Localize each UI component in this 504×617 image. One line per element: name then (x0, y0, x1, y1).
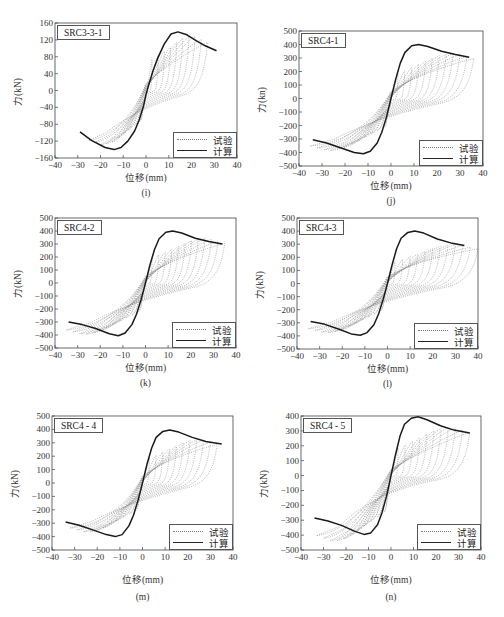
y-tick-label: 300 (286, 426, 300, 436)
x-tick-label: −30 (71, 350, 86, 360)
x-tick-label: 10 (410, 168, 420, 178)
y-tick-label: −100 (34, 291, 53, 301)
x-tick-label: 10 (164, 350, 174, 360)
test-hysteresis-loops (311, 53, 474, 150)
y-tick-label: 120 (40, 35, 54, 45)
y-tick-label: −300 (280, 515, 299, 525)
x-tick-label: 10 (164, 160, 174, 170)
x-tick-label: 20 (183, 552, 193, 562)
legend-item-calc: 计算 (176, 335, 232, 346)
x-tick-label: 30 (209, 350, 219, 360)
y-axis-label: 力(kN) (252, 265, 266, 305)
y-tick-label: −300 (34, 317, 53, 327)
x-tick-label: 30 (451, 351, 461, 361)
x-tick-label: 40 (232, 350, 242, 360)
y-tick-label: −300 (276, 318, 295, 328)
y-tick-label: 300 (282, 239, 296, 249)
y-tick-label: −400 (34, 330, 53, 340)
x-axis-label: 位移(mm) (301, 572, 481, 586)
chart-panel-n: −40−30−20−10010203040−500−400−300−200−10… (301, 416, 481, 550)
solid-line-swatch-icon (423, 158, 453, 159)
y-tick-label: 160 (40, 18, 54, 28)
x-tick-label: 20 (432, 552, 442, 562)
panel-caption: (m) (52, 592, 233, 602)
y-tick-label: 400 (37, 424, 51, 434)
y-tick-label: 100 (286, 456, 300, 466)
y-axis-label: 力(kN) (10, 264, 24, 304)
panel-caption: (n) (301, 592, 481, 602)
dotted-line-swatch-icon (423, 147, 453, 148)
test-hysteresis-loops (308, 245, 478, 333)
x-tick-label: 0 (143, 350, 148, 360)
x-tick-label: 20 (428, 351, 438, 361)
y-tick-label: 400 (286, 411, 300, 421)
chart-panel-k: −40−30−20−10010203040−500−400−300−200−10… (55, 218, 236, 348)
chart-panel-j: −40−30−20−10010203040−500−400−300−200−10… (299, 31, 483, 166)
dotted-line-swatch-icon (173, 531, 203, 532)
x-tick-label: −20 (335, 351, 350, 361)
y-tick-label: 300 (37, 438, 51, 448)
legend-calc-label: 计算 (459, 152, 479, 166)
y-tick-label: −500 (278, 161, 297, 171)
x-tick-label: −20 (93, 350, 108, 360)
specimen-label: SRC4 - 5 (303, 418, 352, 433)
legend-calc-label: 计算 (209, 536, 229, 550)
solid-line-swatch-icon (418, 341, 448, 342)
y-tick-label: −80 (39, 119, 54, 129)
panel-caption: (k) (55, 378, 236, 388)
y-tick-label: −400 (278, 148, 297, 158)
x-tick-label: −10 (116, 160, 131, 170)
y-tick-label: −400 (280, 530, 299, 540)
dotted-line-swatch-icon (421, 531, 451, 532)
y-tick-label: 400 (282, 226, 296, 236)
legend-item-calc: 计算 (423, 153, 479, 164)
legend-calc-label: 计算 (213, 144, 233, 158)
x-tick-label: 40 (229, 552, 239, 562)
dotted-line-swatch-icon (177, 139, 207, 140)
y-axis-label: 力(kn) (254, 80, 268, 120)
y-tick-label: 0 (49, 278, 54, 288)
legend: 试验 计算 (169, 524, 233, 550)
y-tick-label: 500 (37, 411, 51, 421)
y-tick-label: −300 (31, 518, 50, 528)
chart-panel-i: −40−30−20−10010203040−160−120−80−4004080… (55, 23, 237, 158)
x-tick-label: 0 (389, 168, 394, 178)
x-tick-label: 0 (385, 351, 390, 361)
x-tick-label: 20 (433, 168, 443, 178)
test-hysteresis-loops (89, 37, 207, 145)
x-tick-label: −10 (361, 168, 376, 178)
y-tick-label: −200 (280, 500, 299, 510)
calc-curve (313, 45, 469, 154)
y-axis-label: 力(kN) (10, 72, 24, 112)
x-tick-label: −20 (90, 552, 105, 562)
y-tick-label: −300 (278, 134, 297, 144)
x-tick-label: 30 (456, 168, 466, 178)
panel-caption: (i) (55, 188, 237, 198)
x-tick-label: −10 (116, 350, 131, 360)
y-tick-label: 0 (291, 279, 296, 289)
x-tick-label: −10 (358, 351, 373, 361)
y-tick-label: 200 (284, 67, 298, 77)
specimen-label: SRC4-3 (299, 220, 344, 235)
x-tick-label: 10 (409, 552, 419, 562)
test-hysteresis-loops (70, 440, 217, 532)
legend-item-calc: 计算 (418, 336, 474, 347)
y-tick-label: 100 (282, 265, 296, 275)
x-axis-label: 位移(mm) (297, 361, 478, 375)
x-tick-label: 30 (210, 160, 220, 170)
y-tick-label: −100 (280, 485, 299, 495)
x-tick-label: 20 (186, 350, 196, 360)
y-tick-label: 0 (46, 478, 51, 488)
legend: 试验 计算 (417, 524, 481, 550)
x-tick-label: 40 (233, 160, 243, 170)
y-tick-label: 100 (284, 80, 298, 90)
y-tick-label: 40 (44, 69, 54, 79)
y-axis-label: 力(kN) (7, 464, 21, 504)
y-tick-label: 80 (44, 52, 54, 62)
x-tick-label: −30 (71, 160, 86, 170)
y-tick-label: −160 (34, 153, 53, 163)
y-tick-label: 0 (293, 94, 298, 104)
y-tick-label: −200 (34, 304, 53, 314)
x-tick-label: 0 (144, 160, 149, 170)
x-tick-label: −30 (68, 552, 83, 562)
